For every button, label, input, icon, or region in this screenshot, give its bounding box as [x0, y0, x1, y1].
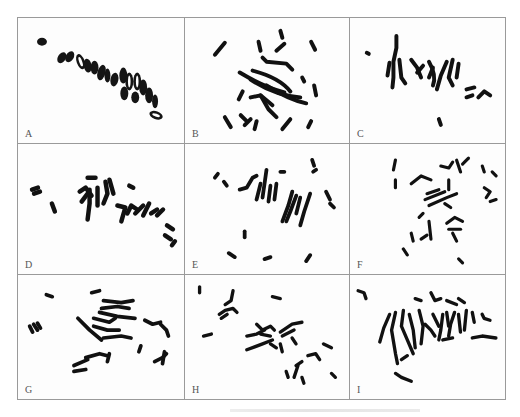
chromosome-spread-b — [185, 18, 349, 143]
panel-f: F — [350, 144, 505, 275]
panel-grid: A — [18, 18, 505, 399]
chromosome-spread-c — [350, 18, 505, 143]
chromosome-spread-g — [18, 275, 184, 399]
panel-label: H — [192, 385, 199, 395]
panel-a: A — [18, 18, 185, 144]
panel-label: G — [25, 385, 32, 395]
chromosome-spread-f — [350, 144, 505, 274]
chromosome-figure: A — [17, 17, 506, 400]
panel-label: D — [25, 260, 32, 270]
panel-g: G — [18, 275, 185, 399]
chromosome-spread-d — [18, 144, 184, 274]
chromosome-spread-a — [18, 18, 184, 143]
panel-label: C — [357, 129, 364, 139]
panel-e: E — [185, 144, 350, 275]
panel-h: H — [185, 275, 350, 399]
panel-label: I — [357, 385, 360, 395]
panel-label: A — [25, 129, 32, 139]
chromosome-spread-h — [185, 275, 349, 399]
panel-d: D — [18, 144, 185, 275]
panel-b: B — [185, 18, 350, 144]
panel-label: F — [357, 260, 363, 270]
panel-label: B — [192, 129, 199, 139]
chromosome-spread-e — [185, 144, 349, 274]
panel-label: E — [192, 260, 198, 270]
panel-c: C — [350, 18, 505, 144]
figure-caption-faded — [230, 409, 420, 412]
panel-i: I — [350, 275, 505, 399]
chromosome-spread-i — [350, 275, 505, 399]
